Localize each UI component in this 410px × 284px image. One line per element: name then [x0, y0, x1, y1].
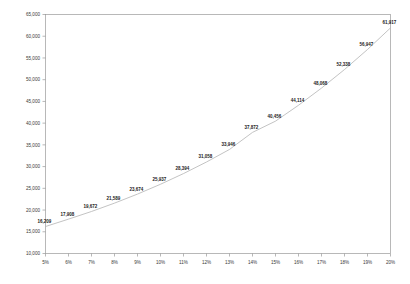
- y-axis-label: 65,000: [26, 12, 40, 17]
- y-axis-label: 55,000: [26, 56, 40, 61]
- y-axis-label: 30,000: [26, 164, 40, 169]
- x-axis-label: 17%: [317, 260, 326, 265]
- x-axis-label: 15%: [271, 260, 280, 265]
- data-point-label: 52,338: [337, 62, 351, 67]
- y-axis-label: 35,000: [26, 143, 40, 148]
- x-axis-label: 12%: [202, 260, 211, 265]
- data-point-label: 21,589: [107, 196, 121, 201]
- data-point-label: 48,068: [314, 81, 328, 86]
- x-axis-label: 18%: [340, 260, 349, 265]
- x-axis-label: 5%: [42, 260, 49, 265]
- x-axis-label: 11%: [179, 260, 188, 265]
- x-axis-label: 20%: [386, 260, 395, 265]
- x-axis-label: 9%: [134, 260, 141, 265]
- data-point-label: 33,946: [222, 142, 236, 147]
- data-point-label: 16,209: [38, 219, 52, 224]
- data-point-label: 37,872: [245, 125, 259, 130]
- data-point-label: 31,058: [199, 154, 213, 159]
- data-point-label: 56,947: [360, 42, 374, 47]
- data-point-label: 28,394: [176, 166, 190, 171]
- x-axis-label: 19%: [363, 260, 372, 265]
- x-axis-label: 7%: [88, 260, 95, 265]
- y-axis-label: 15,000: [26, 229, 40, 234]
- data-point-label: 17,908: [61, 212, 75, 217]
- y-axis-label: 50,000: [26, 77, 40, 82]
- plot-area-border: [46, 15, 391, 254]
- data-point-label: 61,917: [383, 20, 397, 25]
- x-axis-label: 10%: [156, 260, 165, 265]
- data-point-label: 23,674: [130, 187, 144, 192]
- data-point-label: 40,456: [268, 114, 282, 119]
- x-axis-label: 6%: [65, 260, 72, 265]
- data-point-label: 44,114: [291, 98, 305, 103]
- y-axis-label: 20,000: [26, 208, 40, 213]
- line-chart: 10,00015,00020,00025,00030,00035,00040,0…: [0, 0, 410, 284]
- data-point-label: 19,672: [84, 204, 98, 209]
- data-series-line: [46, 28, 391, 227]
- y-axis-label: 45,000: [26, 99, 40, 104]
- x-axis-label: 14%: [248, 260, 257, 265]
- y-axis-label: 60,000: [26, 34, 40, 39]
- data-point-label: 25,937: [153, 177, 167, 182]
- x-axis-label: 8%: [111, 260, 118, 265]
- y-axis-label: 40,000: [26, 121, 40, 126]
- y-axis-label: 25,000: [26, 186, 40, 191]
- y-axis-label: 10,000: [26, 251, 40, 256]
- x-axis-label: 13%: [225, 260, 234, 265]
- x-axis-label: 16%: [294, 260, 303, 265]
- chart-container: 10,00015,00020,00025,00030,00035,00040,0…: [0, 0, 410, 284]
